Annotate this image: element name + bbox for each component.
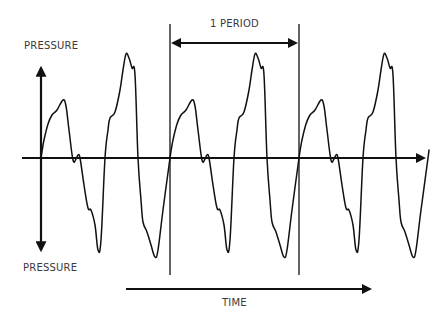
pressure-label-bottom: PRESSURE: [23, 262, 77, 273]
time-label: TIME: [222, 297, 247, 308]
pressure-waveform: [41, 53, 429, 257]
pressure-label-top: PRESSURE: [24, 40, 78, 51]
period-label: 1 PERIOD: [210, 18, 259, 29]
